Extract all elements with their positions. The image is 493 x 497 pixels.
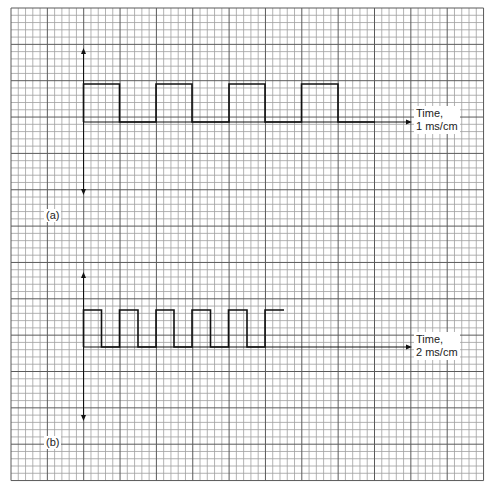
panel-a-square-wave	[81, 48, 412, 195]
square-wave-b	[84, 310, 285, 347]
graph-paper-grid	[11, 8, 484, 481]
arrow-down-icon	[81, 415, 86, 421]
panel-b-square-wave	[81, 272, 412, 421]
time-scale-a: 1 ms/cm	[416, 120, 458, 133]
time-label-line1-a: Time,	[416, 107, 458, 120]
time-axis-label-a: Time, 1 ms/cm	[414, 106, 460, 134]
arrow-up-icon	[81, 272, 86, 278]
graph-paper-figure	[0, 0, 493, 497]
time-scale-b: 2 ms/cm	[416, 346, 458, 359]
panel-label-a: (a)	[44, 209, 61, 222]
panel-label-b: (b)	[44, 436, 61, 449]
time-axis-label-b: Time, 2 ms/cm	[414, 332, 460, 360]
arrow-up-icon	[81, 48, 86, 54]
time-label-line1-b: Time,	[416, 333, 458, 346]
arrow-down-icon	[81, 189, 86, 195]
